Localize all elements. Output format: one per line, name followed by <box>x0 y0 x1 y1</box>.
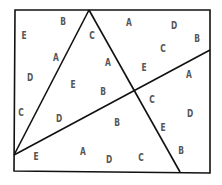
region-label: B <box>100 87 106 97</box>
region-label: B <box>114 118 120 128</box>
region-label: E <box>160 123 165 133</box>
region-label: A <box>105 58 111 68</box>
region-label: B <box>60 17 66 27</box>
region-label: E <box>141 63 146 73</box>
region-label: E <box>21 31 26 41</box>
region-label: A <box>80 147 86 157</box>
diagram-canvas: EBCAADBCAEDEBACDCBDEABEDC <box>0 0 222 185</box>
line-left-to-right <box>14 50 210 155</box>
region-label: E <box>70 80 75 90</box>
region-label: C <box>160 44 166 54</box>
region-label: B <box>194 34 200 44</box>
region-label: D <box>171 21 177 31</box>
region-label: D <box>106 155 112 165</box>
region-label: A <box>186 70 192 80</box>
region-label: A <box>53 53 59 63</box>
region-label: C <box>149 95 155 105</box>
region-label: C <box>138 153 144 163</box>
region-label: E <box>33 152 38 162</box>
region-label: A <box>126 18 132 28</box>
region-label: C <box>89 31 95 41</box>
region-label: D <box>187 109 193 119</box>
region-label: D <box>27 73 33 83</box>
region-label: C <box>18 108 24 118</box>
region-label: D <box>56 114 62 124</box>
region-label: B <box>178 146 184 156</box>
